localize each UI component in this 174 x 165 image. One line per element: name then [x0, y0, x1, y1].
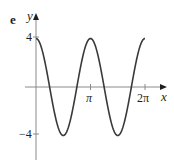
- y-tick-label-minus4: −4: [19, 128, 32, 140]
- y-tick-label-4: 4: [26, 31, 32, 43]
- x-tick-label-2pi: 2π: [137, 92, 149, 104]
- y-axis-arrow-icon: [33, 13, 39, 20]
- panel-label: e: [10, 13, 16, 26]
- y-axis-label: y: [27, 9, 33, 22]
- x-tick-label-pi: π: [86, 92, 92, 104]
- x-axis-label: x: [161, 90, 167, 103]
